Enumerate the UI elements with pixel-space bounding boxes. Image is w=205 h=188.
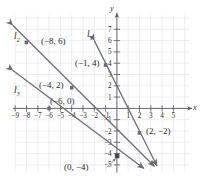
svg-text:−5: −5 <box>104 161 112 169</box>
line-l1 <box>94 41 157 166</box>
point-neg1-4 <box>104 63 108 67</box>
point-2-neg2 <box>138 131 142 135</box>
svg-text:−7: −7 <box>34 112 42 120</box>
point-0-neg4 <box>115 154 120 159</box>
svg-text:−4: −4 <box>104 150 112 158</box>
svg-text:2: 2 <box>138 112 142 120</box>
svg-text:−5: −5 <box>57 112 65 120</box>
svg-text:2: 2 <box>108 82 112 90</box>
coordinate-plane-figure: −9 −8 −7 −6 −5 −4 −3 −2 −1 1 2 3 4 5 7 6… <box>0 0 205 188</box>
x-tick-labels: −9 −8 −7 −6 −5 −4 −3 −2 −1 1 2 3 4 5 <box>11 112 175 120</box>
svg-text:−6: −6 <box>45 112 53 120</box>
svg-text:1: 1 <box>126 112 130 120</box>
grid-lines <box>15 15 189 172</box>
axes <box>13 13 192 173</box>
svg-text:6: 6 <box>108 37 112 45</box>
svg-text:−8: −8 <box>23 112 31 120</box>
svg-text:−9: −9 <box>11 112 19 120</box>
svg-text:−2: −2 <box>90 112 98 120</box>
point-neg6-0 <box>47 107 51 111</box>
svg-text:1: 1 <box>108 94 112 102</box>
svg-text:−3: −3 <box>79 112 87 120</box>
svg-text:5: 5 <box>108 48 112 56</box>
svg-text:3: 3 <box>149 112 153 120</box>
point-neg8-6 <box>25 41 29 45</box>
svg-text:4: 4 <box>160 112 164 120</box>
graph-canvas: −9 −8 −7 −6 −5 −4 −3 −2 −1 1 2 3 4 5 7 6… <box>0 0 205 188</box>
svg-text:−2: −2 <box>104 128 112 136</box>
point-neg4-2 <box>70 86 74 90</box>
svg-text:5: 5 <box>172 112 176 120</box>
line-l2 <box>13 26 155 167</box>
svg-text:4: 4 <box>108 60 112 68</box>
y-tick-labels: 7 6 5 4 3 2 1 −1 −2 −3 −4 −5 <box>104 26 112 170</box>
svg-text:7: 7 <box>108 26 112 34</box>
